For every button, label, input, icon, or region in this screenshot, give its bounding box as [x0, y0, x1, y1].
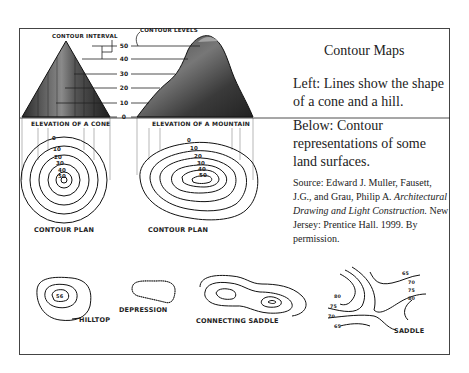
- level-40: 40: [120, 55, 129, 62]
- saddle-right-70: 70: [408, 280, 416, 285]
- depression-diagram: [132, 281, 175, 303]
- saddle-left-80: 80: [334, 294, 342, 299]
- hilltop-diagram: [37, 277, 91, 320]
- level-20: 20: [120, 84, 129, 91]
- saddle-right-75: 75: [408, 288, 415, 293]
- contour-interval-label: CONTOUR INTERVAL: [52, 33, 118, 39]
- cone-label-30: 30: [56, 160, 64, 166]
- cone-elevation: [22, 41, 110, 117]
- saddle-label: SADDLE: [394, 327, 424, 335]
- level-10: 10: [120, 99, 129, 106]
- saddle-right-65: 65: [402, 271, 409, 276]
- left-description: Left: Lines show the shape of a cone and…: [293, 75, 449, 111]
- hilltop-peak-value: 56: [56, 293, 64, 299]
- level-30: 30: [120, 70, 129, 77]
- depression-label: DEPRESSION: [119, 306, 168, 314]
- cone-label-50: 50: [58, 173, 66, 179]
- contour-levels-label: CONTOUR LEVELS: [140, 27, 198, 33]
- below-description: Below: Contour representations of some l…: [293, 117, 449, 171]
- connecting-saddle-label: CONNECTING SADDLE: [196, 317, 279, 325]
- level-50: 50: [120, 42, 129, 49]
- connecting-saddle-diagram: [200, 275, 306, 316]
- mountain-elevation: [137, 36, 253, 117]
- level-0: 0: [122, 113, 126, 120]
- saddle-left-70: 70: [328, 314, 336, 319]
- saddle-left-65: 65: [334, 324, 341, 329]
- page-title: Contour Maps: [324, 43, 405, 59]
- saddle-right-80: 80: [408, 296, 416, 301]
- cone-elevation-label: ELEVATION OF A CONE: [31, 120, 110, 127]
- mountain-plan-caption: CONTOUR PLAN: [148, 226, 208, 234]
- mountain-label-50: 50: [199, 172, 207, 178]
- mountain-label-0: 0: [187, 137, 191, 143]
- saddle-left-75: 75: [330, 304, 337, 309]
- cone-label-10: 10: [53, 146, 61, 152]
- cone-contour-plan: [21, 137, 107, 223]
- cone-label-0: 0: [52, 135, 56, 141]
- hilltop-label: HILLTOP: [79, 316, 110, 324]
- source-citation: Source: Edward J. Muller, Fausett, J.G.,…: [293, 176, 449, 246]
- mountain-elevation-label: ELEVATION OF A MOUNTAIN: [152, 120, 250, 127]
- mountain-label-10: 10: [190, 145, 198, 151]
- cone-plan-caption: CONTOUR PLAN: [34, 226, 94, 234]
- mountain-label-20: 20: [194, 153, 202, 159]
